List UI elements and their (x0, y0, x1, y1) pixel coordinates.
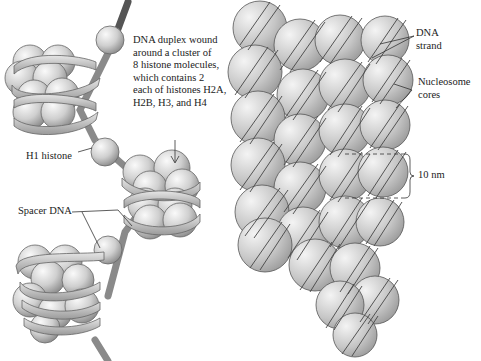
callout-line-2: around a cluster of (133, 47, 226, 60)
nucleosome-bottom (13, 245, 104, 343)
label-nucleosome-cores: Nucleosome cores (418, 76, 471, 101)
label-scale-10nm: 10 nm (418, 169, 445, 182)
nucleosome-top (5, 45, 100, 135)
callout-line-5: each of histones H2A, (133, 84, 226, 97)
callout-histone-cluster: DNA duplex wound around a cluster of 8 h… (133, 34, 226, 109)
nucleosome-middle (122, 150, 200, 239)
label-h1-histone: H1 histone (26, 150, 72, 163)
label-spacer-dna: Spacer DNA (18, 205, 72, 218)
h1-histone-top (96, 26, 124, 54)
callout-line-3: 8 histone molecules, (133, 59, 226, 72)
nucleosome-fiber (228, 1, 413, 357)
label-dna-strand-line-1: DNA (416, 27, 442, 40)
label-nucleosome-cores-line-1: Nucleosome (418, 76, 471, 89)
label-dna-strand: DNA strand (416, 27, 442, 52)
h1-histone-middle (91, 138, 119, 166)
callout-line-1: DNA duplex wound (133, 34, 226, 47)
callout-line-4: which contains 2 (133, 72, 226, 85)
chromatin-diagram (0, 0, 481, 361)
label-nucleosome-cores-line-2: cores (418, 89, 471, 102)
callout-line-6: H2B, H3, and H4 (133, 97, 226, 110)
label-dna-strand-line-2: strand (416, 40, 442, 53)
